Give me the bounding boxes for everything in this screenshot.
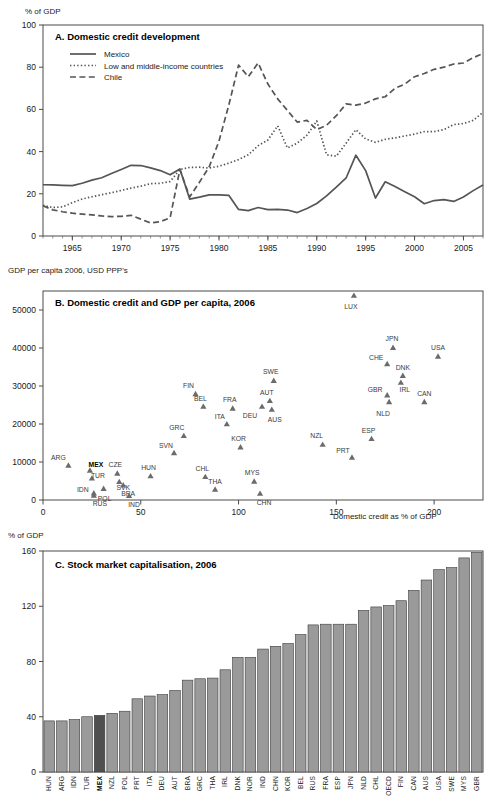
- bar-ind: [258, 649, 269, 772]
- panel-a-y-tick-label: 100: [22, 20, 36, 30]
- scatter-label-svn: SVN: [159, 442, 173, 449]
- bar-idn: [69, 720, 80, 772]
- bar-category-label-aut: AUT: [171, 776, 178, 790]
- panel-b-y-tick-label: 40000: [12, 343, 36, 353]
- bar-irl: [220, 670, 231, 772]
- bar-ita: [145, 696, 156, 772]
- bar-gbr: [471, 552, 482, 772]
- bar-category-label-usa: USA: [435, 776, 442, 790]
- scatter-label-ita: ITA: [215, 413, 226, 420]
- scatter-label-nld: NLD: [376, 410, 390, 417]
- panel-a-x-tick-label: 1995: [356, 243, 375, 253]
- scatter-label-chl: CHL: [196, 465, 210, 472]
- bar-fin: [396, 601, 407, 772]
- bar-oecd: [383, 606, 394, 772]
- bar-bra: [182, 680, 193, 772]
- panel-b-x-tick-label: 0: [41, 507, 46, 517]
- bar-category-label-deu: DEU: [158, 776, 165, 791]
- bar-chl: [371, 607, 382, 772]
- bar-category-label-mex: MEX: [96, 776, 103, 791]
- panel-b-unit-label: GDP per capita 2006, USD PPP's: [8, 266, 128, 275]
- panel-c-y-tick-label: 80: [27, 657, 37, 667]
- panel-a-y-tick-label: 60: [27, 104, 37, 114]
- bar-category-label-tha: THA: [209, 776, 216, 790]
- bar-rus: [308, 625, 319, 772]
- figure-page: % of GDP 0204060801001965197019751980198…: [0, 0, 495, 804]
- scatter-label-ind: IND: [128, 501, 140, 508]
- bar-tur: [82, 717, 93, 772]
- bar-category-label-tur: TUR: [83, 776, 90, 790]
- panel-a-title: A. Domestic credit development: [55, 31, 200, 42]
- bar-category-label-chn: CHN: [272, 776, 279, 791]
- bar-category-label-chl: CHL: [372, 776, 379, 790]
- bar-category-label-dnk: DNK: [234, 776, 241, 791]
- bar-prt: [132, 699, 143, 772]
- panel-a-x-tick-label: 2005: [454, 243, 473, 253]
- panel-b-y-tick-label: 10000: [12, 457, 36, 467]
- bar-category-label-aus: AUS: [422, 776, 429, 790]
- bar-tha: [207, 678, 218, 772]
- panel-c-chart: 04080120160C. Stock market capitalisatio…: [0, 544, 495, 804]
- scatter-label-tur: TUR: [91, 472, 105, 479]
- panel-b-y-tick-label: 0: [31, 495, 36, 505]
- scatter-label-chn: CHN: [257, 499, 272, 506]
- bar-mex: [94, 715, 105, 772]
- bar-pol: [119, 711, 130, 772]
- panel-b-x-tick-label: 100: [231, 507, 245, 517]
- bar-category-label-swe: SWE: [448, 776, 455, 792]
- scatter-label-pol: POL: [98, 495, 112, 502]
- bar-category-label-hun: HUN: [45, 776, 52, 791]
- bar-category-label-ind: IND: [259, 776, 266, 788]
- bar-category-label-kor: KOR: [284, 776, 291, 791]
- panel-c-y-tick-label: 0: [31, 767, 36, 777]
- scatter-label-swe: SWE: [263, 368, 279, 375]
- panel-c-unit-label: % of GDP: [8, 531, 44, 540]
- bar-esp: [333, 624, 344, 772]
- bar-category-label-grc: GRC: [196, 776, 203, 791]
- panel-b-y-tick-label: 50000: [12, 305, 36, 315]
- bar-aut: [170, 691, 181, 772]
- bar-category-label-fra: FRA: [322, 776, 329, 790]
- panel-c-title: C. Stock market capitalisation, 2006: [55, 559, 217, 570]
- scatter-label-jpn: JPN: [386, 335, 399, 342]
- panel-a-y-tick-label: 0: [31, 231, 36, 241]
- scatter-label-idn: IDN: [77, 486, 89, 493]
- panel-a-y-tick-label: 20: [27, 189, 37, 199]
- bar-category-label-ita: ITA: [146, 776, 153, 786]
- bar-category-label-gbr: GBR: [473, 776, 480, 791]
- bar-category-label-idn: IDN: [70, 776, 77, 788]
- scatter-label-usa: USA: [431, 344, 445, 351]
- bar-category-label-esp: ESP: [334, 776, 341, 790]
- bar-can: [409, 590, 420, 772]
- scatter-label-can: CAN: [417, 390, 431, 397]
- panel-a-x-tick-label: 1975: [161, 243, 180, 253]
- bar-bel: [295, 635, 306, 772]
- scatter-label-gbr: GBR: [368, 386, 383, 393]
- bar-category-label-arg: ARG: [58, 776, 65, 791]
- scatter-label-cze: CZE: [109, 461, 123, 468]
- panel-a-legend-label-low-and-middle-income-countries: Low and middle-income countries: [104, 62, 223, 71]
- scatter-label-deu: DEU: [243, 412, 257, 419]
- bar-dnk: [233, 657, 244, 772]
- bar-arg: [57, 721, 68, 772]
- scatter-label-mex: MEX: [89, 461, 104, 468]
- panel-a-x-tick-label: 1965: [63, 243, 82, 253]
- scatter-label-aut: AUT: [260, 389, 274, 396]
- scatter-label-aus: AUS: [268, 416, 282, 423]
- bar-category-label-rus: RUS: [309, 776, 316, 791]
- bar-category-label-oecd: OECD: [385, 776, 392, 796]
- scatter-label-dnk: DNK: [396, 364, 411, 371]
- scatter-label-fra: FRA: [223, 396, 237, 403]
- scatter-label-hun: HUN: [141, 464, 156, 471]
- panel-a-chart: 0204060801001965197019751980198519901995…: [0, 14, 495, 264]
- panel-a-legend-label-chile: Chile: [104, 73, 123, 82]
- scatter-label-esp: ESP: [362, 427, 376, 434]
- bar-fra: [321, 624, 332, 772]
- bar-hun: [44, 721, 55, 772]
- panel-a-legend-label-mexico: Mexico: [104, 50, 130, 59]
- panel-a-x-tick-label: 1990: [307, 243, 326, 253]
- bar-grc: [195, 679, 206, 772]
- bar-category-label-mys: MYS: [460, 776, 467, 791]
- panel-c-y-tick-label: 40: [27, 712, 37, 722]
- bar-chn: [270, 646, 281, 772]
